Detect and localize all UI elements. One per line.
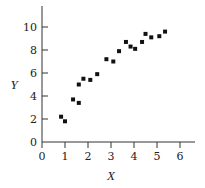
data-point-marker (88, 78, 92, 82)
y-tick-label: 0 (30, 136, 37, 149)
x-ticks: 0123456 (39, 142, 184, 163)
y-tick-label: 2 (30, 113, 37, 126)
x-tick-label: 3 (108, 150, 115, 163)
y-tick-label: 8 (30, 44, 37, 57)
data-point-marker (59, 115, 63, 119)
data-points (59, 30, 167, 124)
data-point-marker (104, 57, 108, 61)
x-tick-label: 0 (39, 150, 46, 163)
y-ticks: 0246810 (23, 21, 48, 149)
data-point-marker (163, 30, 167, 34)
data-point-marker (111, 60, 115, 64)
data-point-marker (117, 49, 121, 53)
y-tick-label: 4 (30, 90, 37, 103)
x-tick-label: 1 (62, 150, 69, 163)
data-point-marker (71, 97, 75, 101)
data-point-marker (140, 40, 144, 44)
data-point-marker (77, 83, 81, 87)
x-tick-label: 2 (85, 150, 92, 163)
data-point-marker (124, 40, 128, 44)
data-point-marker (144, 32, 148, 36)
y-tick-label: 10 (23, 21, 37, 34)
scatter-chart: 0123456 0246810 X Y (0, 0, 205, 188)
x-tick-label: 5 (154, 150, 161, 163)
y-axis-label: Y (10, 77, 19, 92)
data-point-marker (77, 101, 81, 105)
data-point-marker (129, 45, 133, 49)
x-axis-label: X (106, 168, 116, 183)
x-tick-label: 6 (177, 150, 184, 163)
data-point-marker (149, 35, 153, 39)
data-point-marker (63, 119, 67, 123)
x-tick-label: 4 (131, 150, 138, 163)
data-point-marker (157, 34, 161, 38)
y-tick-label: 6 (30, 67, 37, 80)
data-point-marker (95, 72, 99, 76)
data-point-marker (133, 47, 137, 51)
data-point-marker (81, 77, 85, 81)
